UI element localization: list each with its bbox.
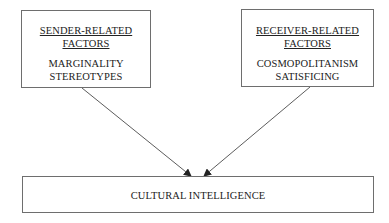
- sender-factor-stereotypes: STEREOTYPES: [22, 70, 150, 83]
- receiver-factor-satisficing: SATISFICING: [242, 70, 373, 83]
- cultural-intelligence-box: CULTURAL INTELLIGENCE: [22, 176, 374, 213]
- arrow-receiver-to-outcome: [204, 87, 310, 176]
- outcome-label: CULTURAL INTELLIGENCE: [131, 190, 266, 201]
- receiver-related-factors-box: RECEIVER-RELATED FACTORS COSMOPOLITANISM…: [241, 9, 374, 87]
- receiver-heading-line-2: FACTORS: [284, 37, 331, 50]
- receiver-heading-line-1: RECEIVER-RELATED: [242, 24, 373, 37]
- arrow-sender-to-outcome: [82, 88, 191, 176]
- receiver-factor-cosmopolitanism: COSMOPOLITANISM: [242, 57, 373, 70]
- sender-related-factors-box: SENDER-RELATED FACTORS MARGINALITY STERE…: [21, 10, 151, 88]
- sender-heading-line-1: SENDER-RELATED: [22, 24, 150, 37]
- sender-heading-line-2: FACTORS: [63, 37, 110, 50]
- sender-factor-marginality: MARGINALITY: [22, 57, 150, 70]
